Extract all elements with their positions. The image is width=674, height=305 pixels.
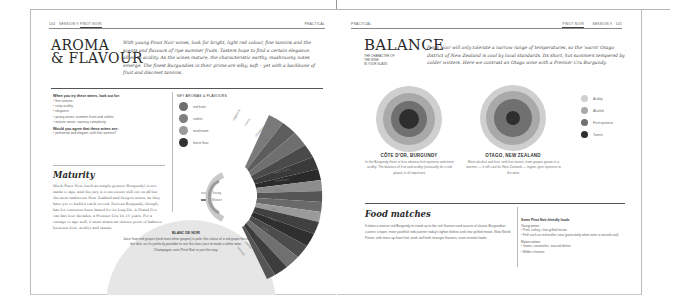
key-aromas-heading: KEY AROMAS & FLAVOURS xyxy=(177,94,227,98)
right-page: PRACTICAL PINOT NOIR SESSION 9 145 BALAN… xyxy=(337,10,642,295)
legend-label: Acidity xyxy=(593,97,603,101)
legend-item-fruit-ripeness: Fruit ripeness xyxy=(581,119,613,126)
column-divider xyxy=(172,92,173,212)
acidity-swatch-icon xyxy=(581,95,588,102)
legend-label: Tannin xyxy=(593,133,603,137)
left-page: 144 SESSION 9 PINOT NOIR PRACTICAL AROMA… xyxy=(30,10,336,295)
legend-item-tannin: Tannin xyxy=(581,131,603,138)
legend-label: Alcohol xyxy=(593,109,604,113)
running-head-rule xyxy=(351,28,622,29)
subtitle-line: IN YOUR GLASS xyxy=(364,63,395,67)
food-matches-heading: Food matches xyxy=(365,209,431,219)
list-item: Milder cheeses xyxy=(521,250,626,255)
burgundy-title: CÔTE D'OR, BURGUNDY xyxy=(359,153,459,158)
spine-line xyxy=(336,0,337,9)
list-item: Fish such as red mullet, tuna (particula… xyxy=(521,233,626,238)
aroma-wheel-chart xyxy=(181,105,331,285)
food-column-divider xyxy=(517,207,518,267)
fruit-ripeness-swatch-icon xyxy=(581,119,588,126)
otago-description: More alcohol and fruit, and less tannin,… xyxy=(466,160,561,176)
page-subtitle: THE CHARACTER OF THE WINE IN YOUR GLASS xyxy=(364,55,395,66)
right-running-head: PRACTICAL PINOT NOIR SESSION 9 145 xyxy=(351,20,622,30)
food-sidebar-title: Some Pinot Noir-friendly foods xyxy=(521,218,626,222)
food-matches-body: It takes a mature red Burgundy to stand … xyxy=(365,223,513,241)
otago-tannin-ring xyxy=(506,111,520,125)
young-food-list: Pork, turkey, char-grilled meats Fish su… xyxy=(521,228,626,238)
food-section-rule xyxy=(365,203,625,204)
mature-food-list: Game, casseroles, sauced dishes Milder c… xyxy=(521,244,626,254)
burgundy-description: In the Burgundy there is less obvious fr… xyxy=(362,160,457,176)
legend-item-acidity: Acidity xyxy=(581,95,603,102)
legend-label: Fruit ripeness xyxy=(593,121,613,125)
tannin-swatch-icon xyxy=(581,131,588,138)
intro-paragraph: Pinot Noir will only tolerate a narrow r… xyxy=(427,44,627,67)
page-number: 145 xyxy=(616,22,622,26)
section-label: SESSION 9 xyxy=(592,22,612,26)
practical-label: PRACTICAL xyxy=(351,22,372,26)
burgundy-tannin-ring xyxy=(399,109,419,129)
otago-title: OTAGO, NEW ZEALAND xyxy=(463,153,563,158)
legend-item-alcohol: Alcohol xyxy=(581,107,604,114)
food-sidebar: Some Pinot Noir-friendly foods Young win… xyxy=(521,218,626,255)
alcohol-swatch-icon xyxy=(581,107,588,114)
